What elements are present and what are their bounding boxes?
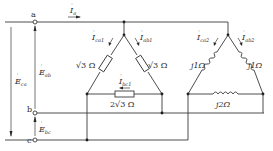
- impedance-label-z-ab2: j1Ω: [246, 61, 263, 70]
- impedance-label-z-ab1: √3 Ω: [148, 61, 168, 70]
- svg-text:·: ·: [17, 70, 19, 77]
- svg-text:Iab2: Iab2: [241, 33, 255, 43]
- svg-text:Ebc: Ebc: [38, 125, 51, 135]
- voltage-label-E-ca: Eca ·: [14, 70, 27, 87]
- svg-text:Eab: Eab: [38, 68, 51, 78]
- arrow-up-icon: [34, 25, 37, 31]
- impedance-label-z-ca2: j1Ω: [189, 61, 206, 70]
- voltage-label-E-bc: Ebc ·: [38, 118, 51, 135]
- current-label-I-ca1: Ica1 ·: [91, 27, 113, 46]
- impedance-label-z-bc1: 2√3 Ω: [110, 100, 135, 109]
- svg-text:Ica1: Ica1: [91, 33, 104, 43]
- terminal-a-label: a: [31, 10, 36, 19]
- svg-text:·: ·: [141, 27, 143, 34]
- svg-text:Ibc1: Ibc1: [118, 77, 131, 87]
- svg-text:·: ·: [120, 71, 122, 78]
- terminal-a: [33, 20, 37, 24]
- svg-text:·: ·: [41, 61, 43, 68]
- voltage-arrow-E-ca: [10, 27, 13, 137]
- svg-text:Eca: Eca: [14, 77, 27, 87]
- current-label-I-ab2: Iab2 ·: [238, 27, 255, 46]
- current-arrow-I-a: Ia ·: [68, 0, 81, 19]
- svg-text:·: ·: [243, 27, 245, 34]
- arrow-down-icon: [10, 131, 13, 137]
- terminal-b: [33, 111, 37, 115]
- terminal-c: [33, 138, 37, 142]
- terminal-c-label: c: [27, 136, 32, 145]
- resistor-bc1: [115, 91, 134, 97]
- voltage-arrow-E-bc: [34, 116, 37, 136]
- inductor-bc2: [213, 92, 238, 94]
- svg-text:Ica2: Ica2: [196, 33, 209, 43]
- svg-text:·: ·: [93, 27, 95, 34]
- arrow-up-icon: [34, 116, 37, 122]
- resistor-ca1: [99, 55, 113, 72]
- svg-text:Ia: Ia: [69, 6, 76, 16]
- svg-text:·: ·: [71, 0, 73, 7]
- arrow-right-icon: [76, 16, 81, 19]
- terminal-b-label: b: [27, 105, 32, 114]
- current-label-I-bc1: Ibc1 ·: [118, 71, 131, 90]
- current-label-I-ca2: Ica2 ·: [196, 27, 218, 46]
- svg-text:Iab1: Iab1: [139, 33, 153, 43]
- three-phase-circuit-diagram: a b c Eca · Eab · Ebc · Ia ·: [0, 0, 273, 151]
- current-label-I-ab1: Iab1 ·: [135, 27, 153, 46]
- svg-text:·: ·: [41, 118, 43, 125]
- impedance-label-z-bc2: j2Ω: [214, 100, 231, 109]
- voltage-arrow-E-ab: [34, 25, 37, 109]
- impedance-label-z-ca1: √3 Ω: [76, 61, 96, 70]
- svg-text:·: ·: [198, 27, 200, 34]
- voltage-label-E-ab: Eab ·: [38, 61, 51, 78]
